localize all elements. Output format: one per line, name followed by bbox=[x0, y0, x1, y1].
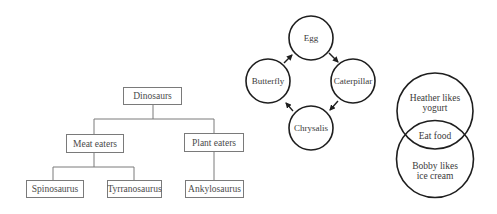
venn-overlap-label: Eat food bbox=[419, 131, 452, 141]
tree-node-label: Ankylosaurus bbox=[188, 184, 241, 194]
cycle-node-egg: Egg bbox=[289, 16, 333, 60]
arrow-chrysalis-to-butterfly-icon bbox=[286, 103, 293, 111]
butterfly-life-cycle: Egg Caterpillar Chrysalis Butterfly bbox=[246, 16, 375, 150]
arrow-caterpillar-to-chrysalis-icon bbox=[330, 101, 338, 110]
venn-heather-label-line2: yogurt bbox=[423, 103, 448, 113]
tree-node-label: Plant eaters bbox=[192, 138, 236, 148]
diagram-canvas: Dinosaurs Meat eaters Plant eaters Spino… bbox=[0, 0, 497, 214]
dinosaur-tree: Dinosaurs Meat eaters Plant eaters Spino… bbox=[27, 88, 244, 198]
venn-diagram: Heather likes yogurt Eat food Bobby like… bbox=[397, 73, 474, 198]
cycle-node-label: Egg bbox=[304, 33, 319, 43]
tree-node-spinosaurus: Spinosaurus bbox=[27, 181, 84, 198]
cycle-node-butterfly: Butterfly bbox=[246, 59, 290, 103]
tree-node-label: Meat eaters bbox=[73, 139, 117, 149]
venn-bobby-label: Bobby likes bbox=[412, 161, 458, 171]
arrow-butterfly-to-egg-icon bbox=[284, 55, 292, 63]
venn-bobby-label-line2: ice cream bbox=[417, 171, 454, 181]
cycle-node-label: Caterpillar bbox=[334, 76, 372, 86]
tree-node-ankylosaurus: Ankylosaurus bbox=[186, 181, 244, 198]
cycle-node-label: Butterfly bbox=[252, 76, 285, 86]
tree-node-label: Tyrranosaurus bbox=[107, 184, 162, 194]
tree-node-meat-eaters: Meat eaters bbox=[67, 135, 124, 153]
tree-node-tyrranosaurus: Tyrranosaurus bbox=[107, 181, 162, 198]
tree-node-root: Dinosaurs bbox=[124, 88, 182, 105]
venn-heather-label: Heather likes bbox=[410, 93, 461, 103]
tree-node-label: Dinosaurs bbox=[133, 91, 172, 101]
tree-node-plant-eaters: Plant eaters bbox=[185, 134, 244, 152]
cycle-node-caterpillar: Caterpillar bbox=[331, 59, 375, 103]
tree-node-label: Spinosaurus bbox=[32, 184, 79, 194]
arrow-egg-to-caterpillar-icon bbox=[329, 53, 338, 62]
cycle-node-label: Chrysalis bbox=[294, 123, 328, 133]
cycle-node-chrysalis: Chrysalis bbox=[289, 106, 333, 150]
